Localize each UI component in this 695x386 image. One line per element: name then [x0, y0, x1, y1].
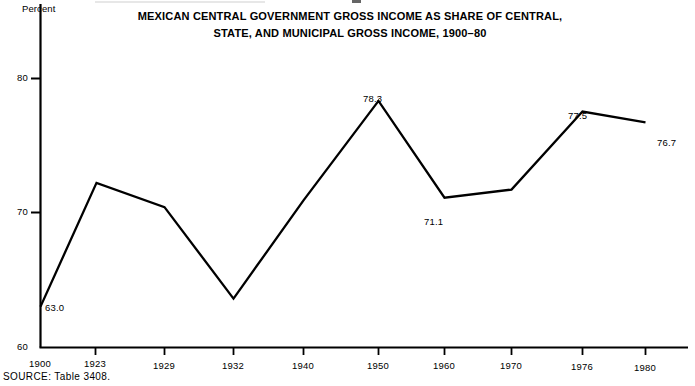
x-tick-label-1940: 1940 — [280, 360, 326, 371]
value-label-1976: 77.5 — [568, 110, 587, 121]
x-tick-label-1932: 1932 — [210, 360, 256, 371]
x-tick-label-1929: 1929 — [141, 360, 187, 371]
chart-plot-area — [0, 0, 695, 386]
chart-page: Percent MEXICAN CENTRAL GOVERNMENT GROSS… — [0, 0, 695, 386]
x-tick-label-1976: 1976 — [559, 361, 605, 372]
value-label-1980: 76.7 — [657, 137, 676, 148]
y-tick-label-80: 80 — [2, 72, 28, 83]
data-series-line — [41, 101, 646, 307]
x-tick-label-1970: 1970 — [488, 360, 534, 371]
value-label-1900: 63.0 — [45, 302, 64, 313]
x-tick-label-1980: 1980 — [622, 362, 668, 373]
x-tick-label-1923: 1923 — [72, 358, 118, 369]
x-tick-label-1960: 1960 — [421, 360, 467, 371]
value-label-1960: 71.1 — [424, 216, 443, 227]
value-label-1950: 78.3 — [363, 93, 382, 104]
y-tick-label-70: 70 — [2, 206, 28, 217]
y-tick-label-60: 60 — [2, 341, 28, 352]
source-note: SOURCE: Table 3408. — [3, 371, 110, 382]
x-tick-label-1950: 1950 — [355, 360, 401, 371]
x-tick-label-1900: 1900 — [17, 358, 63, 369]
